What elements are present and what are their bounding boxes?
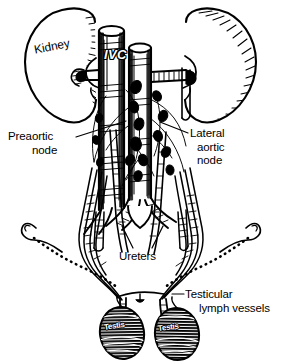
lateral-aortic-node <box>159 145 172 159</box>
label-preaortic-line1: Preaortic <box>8 130 53 142</box>
right-kidney-shape <box>182 9 256 123</box>
lateral-aortic-node <box>152 129 164 142</box>
label-ivc: IVC <box>104 48 127 61</box>
label-lateral-aortic-line1: Lateral <box>190 127 224 139</box>
label-testicular-line2: lymph vessels <box>185 302 270 316</box>
lateral-aortic-node <box>165 164 175 175</box>
left-kidney-shape <box>25 9 105 123</box>
label-lateral-aortic-line2: aortic <box>190 141 225 155</box>
leader-ureter-right <box>152 226 163 248</box>
label-lateral-aortic-node: Lateral aortic node <box>190 127 225 168</box>
anatomical-illustration: Kidney IVC Preaortic node Lateral aortic… <box>0 0 281 361</box>
label-testicular-line1: Testicular <box>185 288 233 300</box>
leader-ureter-left <box>122 226 133 248</box>
label-preaortic-line2: node <box>8 144 57 158</box>
label-preaortic-node: Preaortic node <box>8 130 57 157</box>
label-lateral-aortic-line3: node <box>190 154 225 168</box>
label-ureters: Ureters <box>119 250 156 263</box>
label-testicular-lymph-vessels: Testicular lymph vessels <box>185 288 270 315</box>
